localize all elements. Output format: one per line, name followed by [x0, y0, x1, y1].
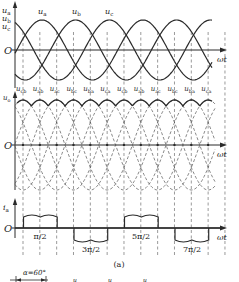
labels-layer: (a) [0, 0, 239, 282]
